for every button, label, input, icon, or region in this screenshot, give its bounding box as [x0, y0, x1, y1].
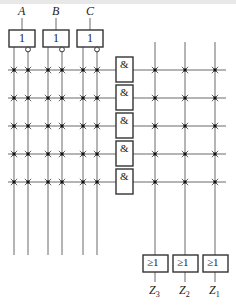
inversion-bubble-c	[95, 47, 100, 52]
buffer-label-c: 1	[87, 31, 93, 46]
buffer-label-a: 1	[19, 31, 25, 46]
and-label-2: &	[120, 86, 129, 98]
input-label-b: B	[52, 4, 59, 19]
input-stems	[22, 18, 90, 30]
input-label-c: C	[86, 4, 94, 19]
output-label-z1-main: Z	[209, 283, 216, 297]
input-label-a: A	[18, 4, 25, 19]
inversion-bubble-b	[60, 47, 65, 52]
and-label-4: &	[120, 142, 129, 154]
or-label-z1: ≥1	[207, 256, 219, 268]
or-label-z2: ≥1	[177, 256, 189, 268]
and-label-5: &	[120, 170, 129, 182]
output-label-z2-main: Z	[179, 283, 186, 297]
output-label-z3: Z3	[149, 283, 160, 299]
output-label-z1: Z1	[209, 283, 220, 299]
or-label-z3: ≥1	[147, 256, 159, 268]
inversion-bubble-a	[26, 47, 31, 52]
input-lines	[14, 47, 97, 255]
pla-diagram	[0, 0, 236, 305]
buffer-label-b: 1	[53, 31, 59, 46]
and-label-1: &	[120, 58, 129, 70]
and-label-3: &	[120, 114, 129, 126]
output-label-z2: Z2	[179, 283, 190, 299]
output-label-z3-sub: 3	[156, 290, 160, 299]
output-lines	[155, 42, 215, 282]
output-label-z3-main: Z	[149, 283, 156, 297]
output-label-z2-sub: 2	[186, 290, 190, 299]
output-label-z1-sub: 1	[216, 290, 220, 299]
